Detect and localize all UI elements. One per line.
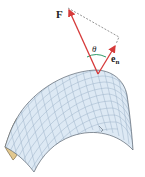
force-label: F bbox=[56, 8, 63, 20]
normal-label: en bbox=[111, 53, 119, 66]
curved-surface bbox=[0, 52, 140, 177]
force-vector bbox=[69, 10, 98, 74]
diagram-canvas: F θ en bbox=[0, 0, 145, 177]
normal-label-subscript: n bbox=[115, 58, 119, 66]
angle-label: θ bbox=[92, 44, 97, 54]
